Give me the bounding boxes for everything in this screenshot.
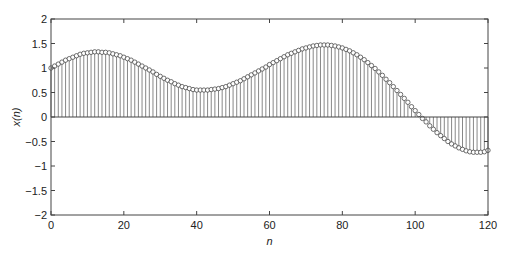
data-point <box>428 124 432 128</box>
data-point <box>431 127 435 131</box>
data-point <box>384 77 388 81</box>
data-point <box>409 105 413 109</box>
y-tick-label: −1 <box>34 160 47 172</box>
y-tick-label: 1 <box>41 62 47 74</box>
stem-lines <box>51 45 488 152</box>
y-tick-label: −0.5 <box>25 136 47 148</box>
data-point <box>380 73 384 77</box>
y-tick-label: 1.5 <box>32 38 47 50</box>
data-point <box>424 120 428 124</box>
data-point <box>402 96 406 100</box>
data-point <box>373 66 377 70</box>
x-tick-label: 0 <box>48 219 54 231</box>
y-axis-label: x(n) <box>10 107 22 127</box>
x-axis-label: n <box>266 235 272 247</box>
data-point <box>387 81 391 85</box>
y-tick-label: −2 <box>34 209 47 221</box>
x-tick-label: 100 <box>406 219 424 231</box>
data-point <box>391 84 395 88</box>
y-tick-label: 2 <box>41 13 47 25</box>
x-tick-label: 80 <box>336 219 348 231</box>
x-tick-label: 20 <box>118 219 130 231</box>
stem-plot: 020406080100120 −2−1.5−1−0.500.511.52 n … <box>0 0 518 253</box>
y-tick-label: 0 <box>41 111 47 123</box>
data-point <box>377 70 381 74</box>
data-point <box>406 100 410 104</box>
x-tick-label: 40 <box>191 219 203 231</box>
data-point <box>413 108 417 112</box>
data-point <box>395 88 399 92</box>
x-tick-label: 60 <box>263 219 275 231</box>
y-tick-label: −1.5 <box>25 185 47 197</box>
data-point <box>398 92 402 96</box>
data-point <box>417 112 421 116</box>
y-tick-label: 0.5 <box>32 87 47 99</box>
x-tick-label: 120 <box>479 219 497 231</box>
